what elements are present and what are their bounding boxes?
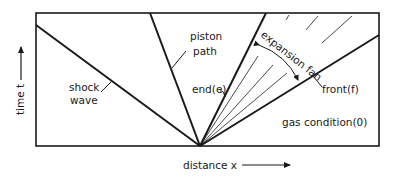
piston-path-leader (172, 51, 186, 68)
shock-wave-leader (101, 81, 112, 92)
front-label: front(f) (322, 83, 359, 95)
shock-wave-line (36, 25, 200, 146)
piston-label-2: path (193, 45, 217, 57)
y-axis-label: time t (14, 84, 26, 115)
x-axis-label: distance x (183, 159, 237, 171)
piston-label-1: piston (190, 30, 222, 42)
wave-diagram: shock wave piston path end(e) expansion … (0, 0, 397, 179)
shock-label-2: wave (70, 94, 98, 106)
expansion-fan-label: expansion fan (259, 28, 325, 83)
shock-label-1: shock (69, 81, 100, 93)
gas-condition-label: gas condition(0) (282, 116, 367, 128)
end-label: end(e) (192, 83, 226, 95)
